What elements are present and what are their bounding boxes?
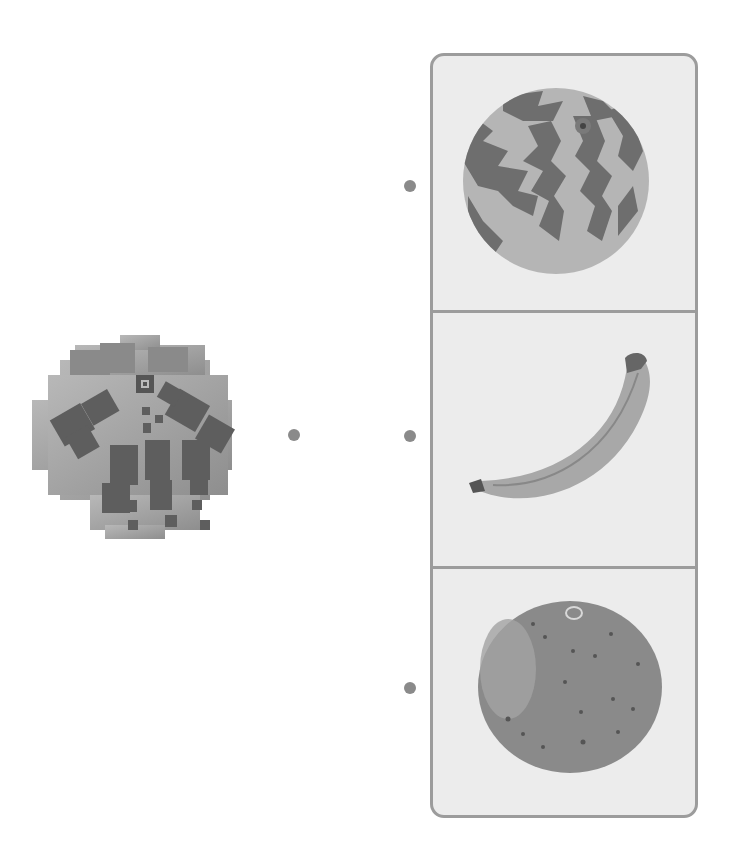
option-connector-dot-watermelon[interactable] [404,180,416,192]
banana-icon [433,313,695,566]
option-connector-dot-banana[interactable] [404,430,416,442]
options-panel [430,53,698,818]
orange-icon [433,569,695,818]
option-orange[interactable] [433,569,695,818]
option-watermelon[interactable] [433,56,695,310]
prompt-connector-dot[interactable] [288,429,300,441]
option-banana[interactable] [433,313,695,566]
option-connector-dot-orange[interactable] [404,682,416,694]
prompt-image-pixelated-watermelon [30,335,238,540]
pixelated-watermelon-icon [30,335,238,540]
watermelon-icon [433,56,695,310]
